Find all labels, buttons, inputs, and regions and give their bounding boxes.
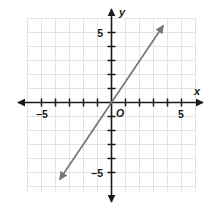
graph-canvas: y x O –5 5 5 –5 [0, 0, 212, 212]
coordinate-plane-figure: y x O –5 5 5 –5 [0, 0, 212, 212]
x-axis-label: x [193, 85, 201, 97]
origin-label: O [116, 107, 124, 119]
x-tick-label-neg5: –5 [36, 108, 48, 120]
figure-background [0, 0, 212, 212]
y-tick-label-5: 5 [97, 27, 103, 39]
y-axis-label: y [118, 6, 126, 18]
x-tick-label-5: 5 [178, 108, 184, 120]
y-tick-label-neg5: –5 [91, 167, 103, 179]
